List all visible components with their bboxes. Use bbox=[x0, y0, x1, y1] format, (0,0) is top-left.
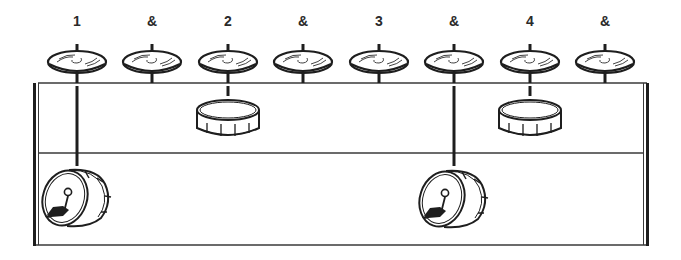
kick-row bbox=[35, 165, 488, 233]
snare-drum-icon bbox=[197, 86, 259, 136]
drum-pattern-diagram: 1 & 2 & 3 & 4 & bbox=[0, 0, 681, 260]
hihat-icon bbox=[123, 44, 181, 83]
hihat-icon bbox=[425, 44, 483, 83]
snare-drum-icon bbox=[499, 86, 561, 136]
snare-row bbox=[197, 86, 561, 136]
hihat-icon bbox=[576, 44, 634, 83]
staff-svg bbox=[0, 0, 681, 260]
hihat-icon bbox=[501, 44, 559, 83]
bass-drum-icon bbox=[412, 166, 488, 233]
kick-stems bbox=[77, 86, 454, 166]
hihat-icon bbox=[350, 44, 408, 83]
hihat-icon bbox=[199, 44, 257, 83]
hihat-row bbox=[48, 44, 634, 83]
hihat-icon bbox=[274, 44, 332, 83]
bass-drum-icon bbox=[35, 165, 111, 232]
hihat-icon bbox=[48, 44, 106, 83]
